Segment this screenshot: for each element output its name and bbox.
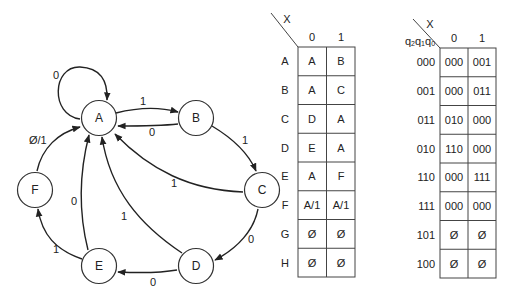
table-row: B A C (281, 84, 345, 96)
input-label: X (283, 13, 291, 25)
svg-text:101: 101 (417, 229, 435, 241)
svg-text:110: 110 (445, 143, 463, 155)
column-header-0: 0 (451, 32, 457, 44)
edge-D-E (118, 270, 177, 273)
svg-text:B: B (281, 84, 288, 96)
svg-text:F: F (31, 183, 38, 197)
table-row: 111 000 000 (418, 200, 491, 212)
svg-text:E: E (281, 170, 288, 182)
edge-label-B-C: 1 (242, 134, 248, 146)
svg-text:A: A (308, 84, 316, 96)
state-vars-label: q2q1q0 (405, 35, 435, 47)
edge-label-A-B: 1 (140, 95, 146, 107)
encoded-state-table: X q2q1q0 0 1 000 000 001 001 000 011 011… (405, 18, 496, 278)
svg-text:C: C (337, 84, 345, 96)
edge-label-E-A: 0 (71, 195, 77, 207)
node-E: E (82, 249, 117, 284)
svg-text:010: 010 (445, 114, 463, 126)
node-A: A (82, 101, 117, 136)
svg-text:000: 000 (445, 171, 463, 183)
table-row: H Ø Ø (281, 257, 346, 269)
column-header-1: 1 (479, 32, 485, 44)
node-B: B (179, 101, 214, 136)
table-row: A A B (281, 55, 344, 67)
table-row: 001 000 011 (417, 85, 491, 97)
svg-text:Ø: Ø (308, 257, 317, 269)
node-C: C (245, 173, 280, 208)
svg-text:H: H (281, 257, 289, 269)
svg-text:F: F (338, 170, 345, 182)
input-label: X (426, 18, 434, 30)
edge-label-B-A: 0 (149, 126, 155, 138)
edge-label-D-E: 0 (150, 276, 156, 288)
edge-label-D-A: 1 (121, 210, 127, 222)
svg-text:B: B (192, 111, 200, 125)
edge-D-A (102, 137, 182, 253)
edge-label-C-D: 0 (248, 233, 254, 245)
svg-text:000: 000 (445, 85, 463, 97)
svg-text:C: C (258, 183, 267, 197)
svg-text:011: 011 (417, 114, 435, 126)
svg-text:Ø: Ø (450, 258, 459, 270)
node-D: D (179, 249, 214, 284)
edge-A-B (116, 108, 178, 113)
svg-text:B: B (337, 55, 344, 67)
table-row: F A/1 A/1 (282, 199, 350, 211)
svg-text:A: A (337, 113, 345, 125)
table-row: G Ø Ø (281, 228, 346, 240)
table-row: 101 Ø Ø (417, 229, 487, 241)
svg-text:Ø: Ø (450, 229, 459, 241)
svg-text:010: 010 (417, 143, 435, 155)
svg-text:A/1: A/1 (304, 199, 321, 211)
edge-E-A (81, 135, 89, 250)
svg-text:000: 000 (473, 143, 491, 155)
edge-label-F-A: Ø/1 (29, 134, 47, 146)
figure: 0 1 0 1 1 0 1 0 0 1 (0, 0, 512, 295)
table-row: 000 000 001 (417, 56, 492, 68)
table-row: 010 110 000 (417, 143, 492, 155)
svg-text:110: 110 (417, 171, 435, 183)
svg-text:A: A (308, 55, 316, 67)
svg-text:A/1: A/1 (333, 199, 350, 211)
state-table: X 0 1 A A B B A C C D A D E A (271, 13, 355, 277)
svg-text:Ø: Ø (478, 229, 487, 241)
svg-text:000: 000 (473, 114, 491, 126)
svg-text:A: A (281, 55, 289, 67)
svg-text:E: E (95, 259, 103, 273)
column-header-0: 0 (309, 31, 315, 43)
svg-text:F: F (282, 199, 289, 211)
svg-text:D: D (192, 259, 201, 273)
node-F: F (18, 173, 53, 208)
svg-text:Ø: Ø (337, 228, 346, 240)
svg-text:000: 000 (445, 56, 463, 68)
svg-text:111: 111 (418, 200, 435, 212)
svg-text:A: A (337, 142, 345, 154)
svg-text:E: E (308, 142, 315, 154)
table-row: 100 Ø Ø (417, 258, 487, 270)
svg-text:Ø: Ø (308, 228, 317, 240)
state-diagram: 0 1 0 1 1 0 1 0 0 1 (18, 67, 280, 288)
svg-text:A: A (95, 111, 103, 125)
table-row: D E A (281, 142, 345, 154)
svg-text:011: 011 (473, 85, 491, 97)
edge-C-A (115, 134, 243, 192)
svg-text:A: A (308, 170, 316, 182)
edges: 0 1 0 1 1 0 1 0 0 1 (29, 67, 258, 288)
edge-label-A-A: 0 (53, 69, 59, 81)
table-row: C D A (281, 113, 345, 125)
svg-text:Ø: Ø (478, 258, 487, 270)
table-row: E A F (281, 170, 344, 182)
column-header-1: 1 (338, 31, 344, 43)
svg-text:100: 100 (417, 258, 435, 270)
edge-B-A (118, 124, 178, 126)
svg-text:001: 001 (473, 56, 491, 68)
svg-text:C: C (281, 113, 289, 125)
edge-E-F (38, 209, 82, 259)
table-row: 011 010 000 (417, 114, 491, 126)
edge-B-C (212, 126, 256, 171)
svg-text:D: D (281, 142, 289, 154)
svg-text:000: 000 (417, 56, 435, 68)
svg-text:G: G (281, 228, 290, 240)
svg-text:000: 000 (473, 200, 491, 212)
svg-text:111: 111 (474, 171, 491, 183)
